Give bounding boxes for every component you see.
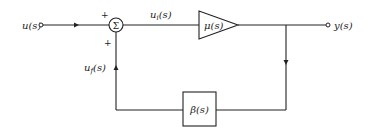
feedback-block-label: β(s) xyxy=(189,104,209,115)
forward-signal-label: ui(s) xyxy=(150,9,172,22)
plus-sign-input: + xyxy=(101,10,109,20)
output-terminal xyxy=(326,23,330,27)
feedback-signal-label: uf(s) xyxy=(84,62,106,75)
sigma-symbol: Σ xyxy=(113,21,119,31)
up-arrow-icon xyxy=(114,65,119,70)
down-arrow-icon xyxy=(284,60,289,65)
plus-sign-feedback: + xyxy=(104,38,112,48)
output-label: y(s) xyxy=(333,20,353,31)
input-arrow-icon xyxy=(74,23,79,28)
amplifier-label: μ(s) xyxy=(204,20,224,31)
input-terminal xyxy=(39,23,43,27)
block-diagram: u(s) Σ + + ui(s) μ(s) y(s) β(s) uf(s) xyxy=(0,0,369,132)
